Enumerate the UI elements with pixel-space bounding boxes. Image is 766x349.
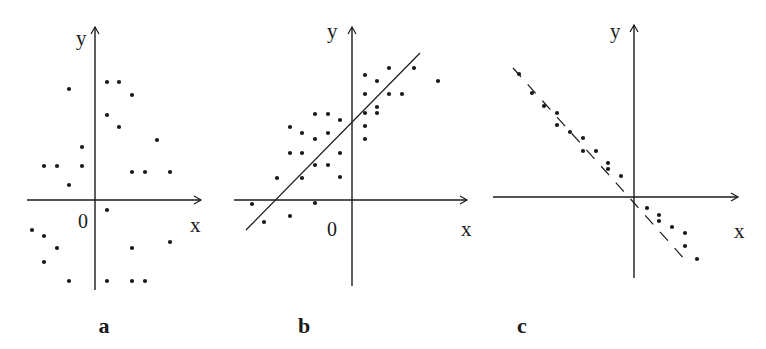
- data-point: [105, 113, 109, 117]
- data-point: [313, 163, 317, 167]
- data-point: [326, 112, 330, 116]
- data-point: [400, 92, 404, 96]
- data-point: [105, 80, 109, 84]
- data-point: [288, 125, 292, 129]
- data-point: [275, 176, 279, 180]
- data-point: [683, 244, 687, 248]
- data-point: [338, 175, 342, 179]
- origin-label: 0: [78, 210, 88, 232]
- data-point: [581, 136, 585, 140]
- data-point: [30, 228, 34, 232]
- data-point: [262, 220, 266, 224]
- origin-label: 0: [327, 218, 337, 240]
- x-axis-label: x: [734, 219, 745, 243]
- data-point: [250, 202, 254, 206]
- data-point: [168, 240, 172, 244]
- panel-b: x y 0 b: [234, 19, 472, 338]
- data-point: [288, 214, 292, 218]
- panel-a: x y 0 a: [27, 26, 201, 338]
- data-point: [555, 123, 559, 127]
- data-point: [606, 161, 610, 165]
- data-point: [143, 170, 147, 174]
- data-point: [55, 164, 59, 168]
- data-point: [412, 66, 416, 70]
- data-point: [555, 111, 559, 115]
- data-point: [130, 93, 134, 97]
- data-point: [338, 118, 342, 122]
- data-point: [117, 125, 121, 129]
- data-point: [375, 79, 379, 83]
- data-point: [363, 92, 367, 96]
- data-point: [645, 206, 649, 210]
- data-point: [67, 183, 71, 187]
- data-point: [67, 87, 71, 91]
- data-point: [436, 79, 440, 83]
- data-point: [80, 164, 84, 168]
- scatter-plots-canvas: x y 0 a x y 0 b x y c: [0, 0, 766, 349]
- data-point: [130, 246, 134, 250]
- data-point: [55, 246, 59, 250]
- data-point: [363, 111, 367, 115]
- data-point: [326, 131, 330, 135]
- data-point: [695, 257, 699, 261]
- regression-line: [246, 53, 420, 230]
- data-point: [105, 208, 109, 212]
- x-axis-label: x: [461, 217, 472, 241]
- data-point: [168, 170, 172, 174]
- data-point: [313, 112, 317, 116]
- panel-c: x y c: [493, 19, 745, 338]
- data-point: [657, 213, 661, 217]
- y-axis-label: y: [610, 19, 621, 43]
- data-point: [326, 163, 330, 167]
- panel-label: b: [298, 313, 310, 338]
- data-point: [606, 167, 610, 171]
- panel-label: a: [99, 313, 110, 338]
- data-point: [42, 234, 46, 238]
- data-point: [363, 73, 367, 77]
- data-point: [300, 176, 304, 180]
- data-points: [517, 72, 699, 261]
- data-point: [568, 130, 572, 134]
- scatter-figure: x y 0 a x y 0 b x y c: [0, 0, 766, 349]
- data-point: [42, 260, 46, 264]
- data-point: [594, 149, 598, 153]
- data-point: [155, 138, 159, 142]
- x-axis-label: x: [190, 213, 201, 237]
- data-point: [338, 151, 342, 155]
- data-points: [30, 80, 172, 283]
- data-point: [657, 219, 661, 223]
- data-point: [387, 66, 391, 70]
- data-point: [581, 149, 585, 153]
- data-point: [117, 80, 121, 84]
- data-point: [130, 170, 134, 174]
- data-point: [375, 105, 379, 109]
- data-point: [143, 279, 147, 283]
- data-point: [387, 92, 391, 96]
- data-point: [80, 145, 84, 149]
- y-axis-label: y: [327, 19, 338, 43]
- data-point: [683, 231, 687, 235]
- data-point: [313, 201, 317, 205]
- regression-line: [513, 68, 687, 262]
- data-point: [300, 151, 304, 155]
- data-point: [67, 279, 71, 283]
- data-point: [313, 137, 317, 141]
- data-point: [619, 174, 623, 178]
- data-point: [105, 279, 109, 283]
- data-point: [130, 279, 134, 283]
- data-point: [375, 111, 379, 115]
- data-point: [42, 164, 46, 168]
- panel-label: c: [517, 313, 527, 338]
- data-point: [363, 137, 367, 141]
- y-axis-label: y: [76, 26, 87, 50]
- data-point: [288, 151, 292, 155]
- data-point: [300, 131, 304, 135]
- data-point: [670, 225, 674, 229]
- data-point: [363, 124, 367, 128]
